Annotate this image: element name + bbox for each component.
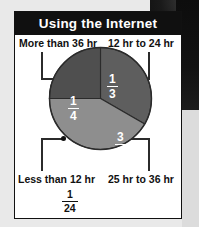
page-title: Using the Internet	[39, 17, 157, 31]
pie-graphic	[48, 46, 153, 151]
fraction-numerator: 1	[68, 95, 79, 107]
fraction-denominator: 8	[115, 144, 126, 158]
fraction-numerator: 1	[107, 73, 118, 85]
fraction-denominator: 24	[62, 201, 78, 214]
fraction-denominator: 3	[107, 86, 118, 100]
fraction-numerator: 3	[115, 131, 126, 143]
chart-title-bar: Using the Internet	[15, 12, 181, 35]
leader-line-more-than-36hr-vertical	[41, 52, 43, 79]
leader-line-less-than-12hr-vertical	[41, 138, 43, 171]
value-less-than-12hr: 1 24	[62, 189, 78, 214]
pie-svg	[48, 46, 153, 151]
pie-chart-area: More than 36 hr 12 hr to 24 hr Less than…	[15, 35, 181, 218]
value-more-than-36hr: 1 4	[68, 95, 79, 122]
page-edge-strip	[182, 110, 199, 227]
chart-card: Using the Internet More than 36 hr 12 hr…	[14, 11, 182, 219]
fraction-numerator: 1	[62, 189, 78, 200]
screenshot-root: Using the Internet More than 36 hr 12 hr…	[0, 0, 199, 227]
label-25hr-to-36hr: 25 hr to 36 hr	[108, 174, 174, 185]
value-25hr-to-36hr: 3 8	[115, 131, 126, 158]
value-12hr-to-24hr: 1 3	[107, 73, 118, 100]
label-less-than-12hr: Less than 12 hr	[18, 174, 95, 185]
fraction-denominator: 4	[68, 108, 79, 122]
pie-slice-more-than-36hr	[50, 48, 101, 99]
